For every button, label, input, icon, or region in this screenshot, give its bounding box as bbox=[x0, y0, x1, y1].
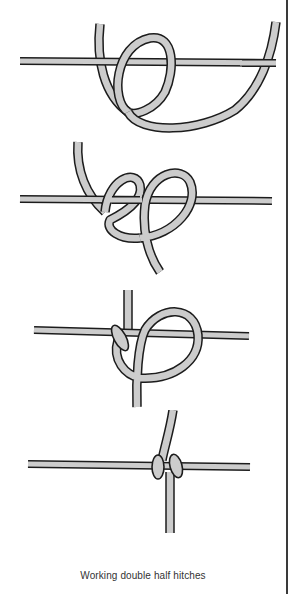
knot-stage-4-illustration bbox=[0, 410, 286, 545]
knot-stage-1-illustration bbox=[0, 0, 286, 140]
knot-stage-2-illustration bbox=[0, 140, 286, 290]
knot-stage-3-illustration bbox=[0, 290, 286, 410]
working-cord-loop bbox=[118, 38, 171, 113]
holding-cord bbox=[28, 464, 250, 467]
page-border-rule bbox=[286, 0, 288, 594]
working-cord-top bbox=[162, 410, 173, 460]
first-loop bbox=[105, 177, 140, 238]
half-hitch-left bbox=[152, 455, 164, 479]
holding-cord bbox=[20, 61, 276, 63]
second-loop bbox=[140, 173, 192, 272]
figure-caption: Working double half hitches bbox=[0, 570, 286, 581]
